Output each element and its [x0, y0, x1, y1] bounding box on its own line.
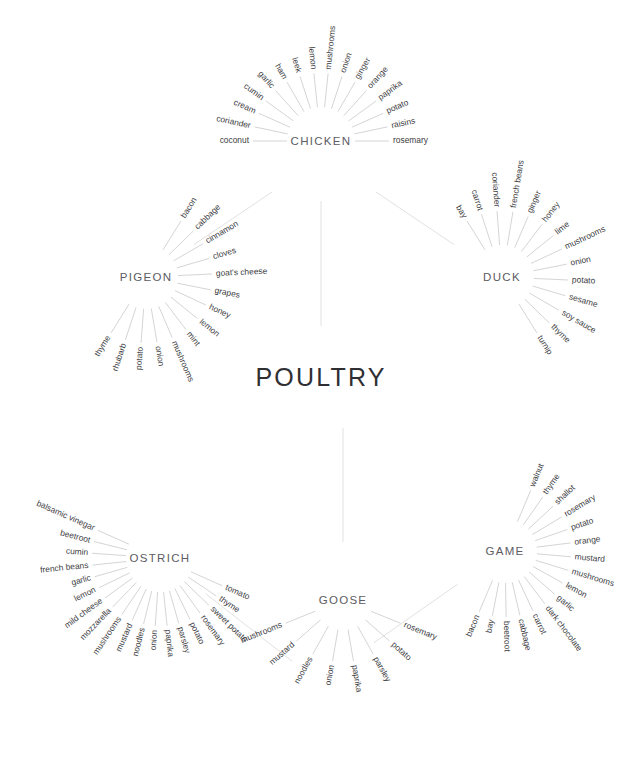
spoke-line [94, 542, 127, 550]
spoke-line [178, 274, 212, 276]
ingredient-label: onion [338, 51, 354, 74]
ingredient-label: paprika [163, 629, 176, 658]
spoke-line [344, 90, 367, 115]
ingredient-label: mint [185, 329, 203, 348]
spoke-line [254, 127, 287, 134]
ingredient-label: honey [208, 301, 234, 320]
ingredient-label: bacon [463, 613, 481, 638]
ingredient-label: turnip [536, 333, 556, 356]
spoke-line [533, 286, 566, 296]
spoke-line [467, 221, 485, 250]
ingredient-label: mustard [267, 639, 297, 667]
ingredient-label: coconut [220, 135, 250, 145]
cluster-title-ostrich: OSTRICH [130, 552, 191, 564]
ingredient-label: cumin [66, 546, 89, 558]
ingredient-label: onion [148, 629, 159, 650]
ingredient-label: cinnamon [204, 218, 241, 245]
ingredient-label: onion [323, 664, 336, 686]
ingredient-label: cumin [242, 81, 266, 102]
ingredient-label: mushrooms [323, 25, 338, 70]
spoke-line [92, 553, 126, 555]
ingredient-label: garlic [70, 572, 92, 587]
ingredient-label: balsamic vinegar [35, 498, 97, 533]
center-title: POULTRY [255, 363, 386, 391]
spoke-line [98, 530, 129, 544]
spoke-line [506, 583, 507, 617]
spoke-line [507, 212, 513, 246]
ingredient-label: cabbage [192, 201, 222, 231]
spoke-line [531, 249, 562, 263]
spoke-line [537, 543, 571, 547]
ingredient-label: cream [232, 97, 257, 116]
ingredient-label: ham [273, 62, 290, 81]
ingredient-label: ginger [352, 55, 372, 80]
spoke-line [333, 630, 338, 662]
ingredient-label: raisins [390, 115, 416, 130]
ingredient-label: garlic [256, 69, 277, 91]
spoke-line [524, 577, 544, 604]
ingredient-label: potato [390, 639, 414, 662]
ingredient-label: leek [290, 56, 305, 74]
spoke-line [141, 309, 144, 343]
spoke-line [534, 278, 568, 280]
ingredient-label: thyme [92, 333, 113, 358]
spoke-line [99, 573, 130, 588]
ingredient-label: rosemary [403, 619, 440, 642]
ingredient-label: onion [570, 254, 592, 268]
ingredient-labels-group: coconutcoriandercreamcumingarlichamleekl… [35, 25, 615, 693]
spoke-line [151, 309, 157, 343]
cluster-title-game: GAME [485, 545, 524, 557]
spoke-line [532, 517, 561, 535]
spoke-line [325, 73, 329, 107]
spoke-line [481, 214, 492, 246]
spoke-line [180, 586, 200, 614]
ingredient-label: potato [572, 274, 596, 285]
spoke-line [159, 306, 172, 337]
ingredient-label: potato [569, 515, 595, 532]
ingredient-label: bay [483, 618, 496, 634]
ingredient-label: mushrooms [170, 339, 197, 383]
ingredient-label: noodles [292, 655, 315, 685]
spoke-line [358, 626, 374, 654]
spoke-line [348, 630, 353, 662]
spoke-line [338, 82, 355, 111]
ingredient-label: lemon [307, 46, 319, 70]
spoke-line [92, 562, 126, 566]
ingredient-label: bay [454, 203, 470, 220]
spoke-line [125, 307, 136, 339]
ingredient-label: orange [574, 534, 601, 547]
spoke-line [287, 82, 304, 111]
ingredient-label: paprika [350, 664, 365, 693]
spoke-line [144, 591, 152, 624]
radial-chart-canvas: coconutcoriandercreamcumingarlichamleekl… [0, 0, 642, 780]
spoke-line [300, 76, 311, 108]
spoke-line [286, 611, 316, 623]
spoke-line [365, 620, 389, 641]
spoke-line [479, 580, 492, 611]
spoke-line [155, 592, 157, 626]
spoke-line [122, 586, 141, 614]
connector-line-game [374, 584, 458, 643]
ingredient-label: garlic [555, 593, 577, 614]
ingredient-label: sesame [568, 291, 599, 309]
spoke-line [175, 291, 206, 305]
ingredient-label: rhubarb [110, 341, 129, 372]
ingredient-label: mustard [574, 551, 605, 564]
ingredient-label: ginger [524, 189, 543, 215]
spoke-line [314, 73, 318, 107]
spoke-line [177, 283, 210, 290]
spoke-line [191, 572, 222, 586]
spoke-line [519, 580, 533, 611]
spoke-line [533, 567, 563, 583]
cluster-title-pigeon: PIGEON [120, 271, 173, 283]
spoke-line [95, 567, 128, 576]
spoke-line [111, 304, 129, 333]
ingredient-label: beetroot [502, 621, 513, 653]
ingredient-label: dark chocolate [544, 603, 585, 653]
spoke-line [529, 572, 555, 594]
ingredient-label: mushrooms [239, 619, 283, 645]
spoke-line [177, 258, 210, 268]
ingredient-label: cloves [211, 245, 237, 261]
flavour-pairing-diagram: coconutcoriandercreamcumingarlichamleekl… [0, 0, 642, 780]
ingredient-label: noodles [130, 626, 147, 657]
